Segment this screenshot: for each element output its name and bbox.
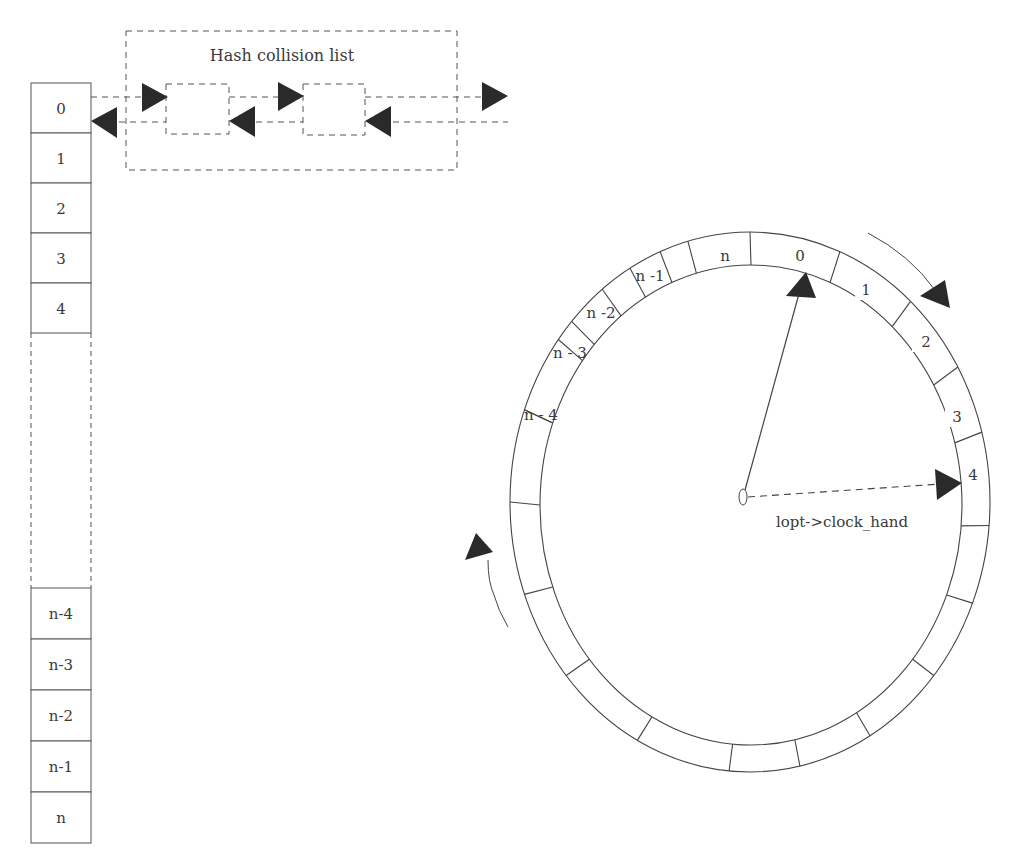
clock-ring xyxy=(510,232,990,772)
ring-divider xyxy=(913,659,934,675)
arrow-right-icon xyxy=(142,83,168,112)
segment-label: n - 3 xyxy=(553,344,587,362)
link-arrows xyxy=(91,82,508,138)
rotation-arc-left xyxy=(488,560,508,627)
segment-label: 3 xyxy=(952,408,962,426)
ring-divider xyxy=(566,659,589,675)
ring-dividers xyxy=(510,232,989,771)
clock-hand-pointer xyxy=(748,484,940,497)
ring-outer xyxy=(510,232,990,772)
arrow-right-icon xyxy=(482,82,508,111)
segment-label: n -2 xyxy=(586,304,615,322)
segment-label: n xyxy=(720,247,730,265)
slot-label: 3 xyxy=(56,250,66,268)
ring-divider xyxy=(510,502,540,505)
clock-hand-label: lopt->clock_hand xyxy=(776,513,909,531)
segment-label: 0 xyxy=(795,247,805,265)
arrow-up-icon xyxy=(786,272,816,298)
segment-label: 1 xyxy=(861,281,871,299)
ring-divider xyxy=(524,587,552,594)
ring-inner xyxy=(540,265,962,745)
rotation-arc-top xyxy=(868,233,935,290)
slot-label: 2 xyxy=(56,200,66,218)
segment-label: 2 xyxy=(921,333,931,351)
ring-divider xyxy=(857,713,871,736)
slot-label: 0 xyxy=(56,100,66,118)
ring-divider xyxy=(637,717,652,740)
arrow-left-icon xyxy=(91,107,117,138)
ring-divider xyxy=(750,232,751,265)
arrow-left-icon xyxy=(365,106,391,137)
arrow-left-icon xyxy=(229,106,255,137)
hand-to-slot-0 xyxy=(745,290,800,490)
slot-label: n-3 xyxy=(49,656,73,674)
ring-divider xyxy=(729,744,733,771)
arrow-right-icon xyxy=(935,469,962,500)
slot-label: n-4 xyxy=(49,605,73,623)
collision-node-2 xyxy=(303,84,365,135)
clock-hands xyxy=(739,272,962,505)
ring-divider xyxy=(892,301,910,326)
segment-label: n -1 xyxy=(635,267,664,285)
clock-center-pivot xyxy=(739,489,747,505)
arrow-right-icon xyxy=(278,82,304,111)
hash-table xyxy=(31,83,91,843)
rotation-arrow-icon xyxy=(465,533,493,560)
slot-label: n-1 xyxy=(49,758,73,776)
rotation-arrow-icon xyxy=(920,280,950,308)
collision-node-1 xyxy=(166,84,229,134)
ring-divider xyxy=(830,252,840,283)
segment-label: 4 xyxy=(968,466,978,484)
ring-divider xyxy=(795,740,800,766)
slot-label: n xyxy=(56,809,66,827)
segment-label: n - 4 xyxy=(524,406,558,424)
ring-divider xyxy=(947,595,973,603)
diagram-canvas: 0 1 2 3 4 n-4 n-3 n-2 n-1 n Hash collisi… xyxy=(0,0,1013,858)
ring-divider xyxy=(688,241,697,273)
slot-label: n-2 xyxy=(49,707,73,725)
ring-divider xyxy=(934,367,958,385)
ring-divider xyxy=(572,321,595,344)
slot-label: 4 xyxy=(56,300,66,318)
ring-divider xyxy=(955,432,982,443)
slot-label: 1 xyxy=(56,150,66,168)
clock-segment-labels: n -1 n 0 1 2 3 4 n -2 n - 3 n - 4 xyxy=(524,247,978,484)
collision-list-title: Hash collision list xyxy=(210,46,355,65)
